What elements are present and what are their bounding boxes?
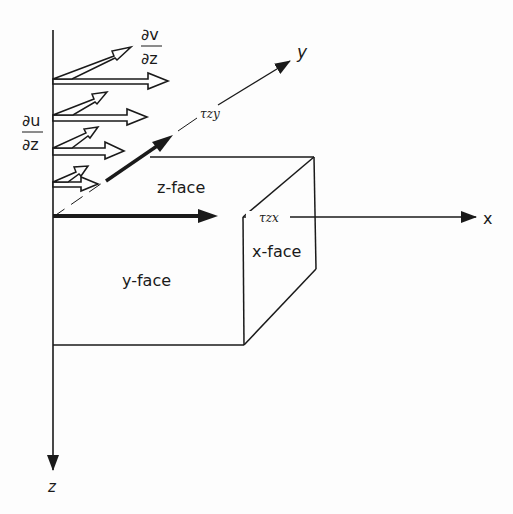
du-dz-fraction: ∂u ∂z (22, 111, 43, 154)
tau-zx-arrow (53, 209, 218, 223)
z-axis-label: z (47, 478, 57, 496)
z-face-label: z-face (157, 178, 205, 197)
y-face-label: y-face (122, 271, 171, 290)
x-face-label: x-face (252, 242, 301, 261)
du-dz-velocity-arrows (53, 73, 168, 191)
du-numerator: ∂u (22, 111, 40, 130)
dv-dz-fraction: ∂v ∂z (141, 25, 162, 68)
tau-zy-arrow (106, 135, 173, 181)
shear-stress-diagram: y x z z-face y-face x-face τzy τzx ∂u ∂z… (0, 0, 513, 514)
dz-denominator-v: ∂z (141, 49, 158, 68)
tau-zy-label: τzy (200, 107, 220, 121)
x-axis-label: x (483, 209, 492, 228)
dv-numerator: ∂v (141, 25, 159, 44)
y-axis-label: y (296, 42, 308, 62)
dz-denominator: ∂z (22, 135, 39, 154)
tau-zx-label: τzx (259, 211, 279, 225)
